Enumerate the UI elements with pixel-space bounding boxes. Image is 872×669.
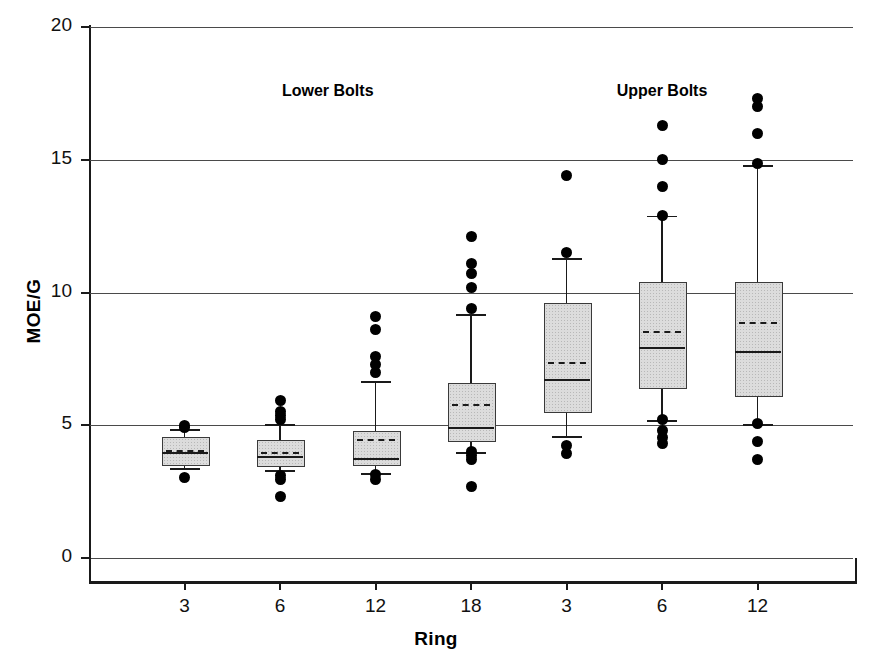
y-axis-tick-label: 5 (26, 412, 72, 434)
outlier-point (275, 491, 286, 502)
mean-line (357, 439, 395, 441)
outlier-point (370, 311, 381, 322)
x-axis-line (89, 581, 855, 583)
x-axis-tick-label: 18 (441, 595, 501, 617)
outlier-point (657, 154, 668, 165)
outlier-point (466, 481, 477, 492)
outlier-point (370, 474, 381, 485)
x-axis-title: Ring (0, 628, 872, 650)
outlier-point (275, 414, 286, 425)
outlier-point (752, 454, 763, 465)
median-line (544, 379, 590, 381)
whisker-cap-lower (170, 468, 200, 470)
outlier-point (466, 258, 477, 269)
outlier-point (752, 128, 763, 139)
whisker-cap-upper (552, 258, 582, 260)
outlier-point (752, 418, 763, 429)
y-axis-title: MOE/G (23, 251, 45, 371)
outlier-point (370, 367, 381, 378)
whisker-cap-upper (456, 314, 486, 316)
x-axis-tick-label: 12 (346, 595, 406, 617)
x-axis-tick (279, 581, 281, 590)
median-line (257, 456, 303, 458)
group-label-lower-bolts: Lower Bolts (238, 82, 418, 100)
outlier-point (657, 120, 668, 131)
x-axis-tick-label: 3 (537, 595, 597, 617)
x-axis-tick (375, 581, 377, 590)
median-line (735, 351, 781, 353)
x-axis-tick-label: 3 (155, 595, 215, 617)
median-line (448, 427, 494, 429)
outlier-point (466, 231, 477, 242)
median-line (639, 347, 685, 349)
y-axis-tick-label: 15 (26, 147, 72, 169)
outlier-point (752, 436, 763, 447)
outlier-point (752, 158, 763, 169)
whisker-cap-lower (552, 436, 582, 438)
mean-line (643, 331, 681, 333)
median-line (353, 458, 399, 460)
outlier-point (561, 448, 572, 459)
group-label-upper-bolts: Upper Bolts (572, 82, 752, 100)
outlier-point (561, 170, 572, 181)
box-iqr (448, 383, 496, 442)
mean-line (166, 450, 204, 452)
x-axis-tick (566, 581, 568, 590)
x-axis-tick (757, 581, 759, 590)
mean-line (739, 322, 777, 324)
outlier-point (466, 268, 477, 279)
outlier-point (466, 454, 477, 465)
plot-area (89, 27, 853, 558)
x-axis-tick (184, 581, 186, 590)
outlier-point (179, 472, 190, 483)
outlier-point (370, 324, 381, 335)
outlier-point (657, 210, 668, 221)
outlier-point (657, 438, 668, 449)
chart-canvas: MOE/G 05101520 Lower Bolts Upper Bolts 3… (0, 0, 872, 669)
whisker-cap-upper (361, 381, 391, 383)
x-axis-tick-label: 6 (250, 595, 310, 617)
outlier-point (657, 414, 668, 425)
y-axis-tick-label: 0 (26, 545, 72, 567)
box-iqr (544, 303, 592, 413)
mean-line (548, 362, 586, 364)
x-axis-tick-label: 12 (728, 595, 788, 617)
outlier-point (179, 422, 190, 433)
y-axis-tick-label: 20 (26, 14, 72, 36)
x-axis-tick (470, 581, 472, 590)
outlier-point (561, 247, 572, 258)
outlier-point (752, 101, 763, 112)
box-iqr (353, 431, 401, 466)
outlier-point (657, 181, 668, 192)
x-axis-tick-label: 6 (632, 595, 692, 617)
outlier-point (275, 474, 286, 485)
mean-line (452, 404, 490, 406)
outlier-point (275, 395, 286, 406)
y-axis-tick-label: 10 (26, 280, 72, 302)
mean-line (261, 452, 299, 454)
box-iqr (735, 282, 783, 397)
x-axis-tick (661, 581, 663, 590)
outlier-point (466, 303, 477, 314)
box-iqr (639, 282, 687, 389)
outlier-point (466, 282, 477, 293)
